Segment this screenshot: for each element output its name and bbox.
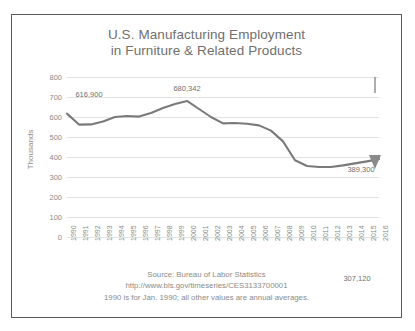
peak-value-label: 680,342 (173, 84, 200, 93)
y-axis-tick-label: 700 (49, 93, 62, 102)
y-axis-tick-label: 400 (49, 153, 62, 162)
y-axis-tick-label: 600 (49, 113, 62, 122)
y-axis-tick-label: 500 (49, 133, 62, 142)
chart-title: U.S. Manufacturing Employment in Furnitu… (12, 27, 401, 59)
footer-source: Source: Bureau of Labor Statistics (12, 269, 401, 281)
end-value-label: 389,300 (347, 165, 374, 174)
y-axis-tick-label: 800 (49, 73, 62, 82)
footer-url: http://www.bls.gov/timeseries/CES3133700… (12, 280, 401, 292)
y-axis-tick-label: 200 (49, 193, 62, 202)
y-axis-label: Thousands (26, 110, 35, 190)
y-axis-tick-label: 100 (49, 213, 62, 222)
chart-figure: U.S. Manufacturing Employment in Furnitu… (11, 14, 402, 318)
x-axis-tick-label: 2016 (382, 225, 389, 241)
start-value-label: 616,900 (75, 90, 102, 99)
gridline (67, 237, 379, 238)
y-axis-tick-label: 0 (58, 233, 62, 242)
footer-note: 1990 is for Jan. 1990; all other values … (12, 292, 401, 304)
y-axis-tick-label: 300 (49, 173, 62, 182)
chart-title-line-1: U.S. Manufacturing Employment (12, 27, 401, 43)
chart-footer: Source: Bureau of Labor Statistics http:… (12, 269, 401, 304)
series-line (67, 77, 379, 237)
plot-area: 8007006005004003002001000 19901991199219… (67, 77, 379, 237)
chart-title-subtitle: in Furniture & Related Products (12, 43, 401, 59)
